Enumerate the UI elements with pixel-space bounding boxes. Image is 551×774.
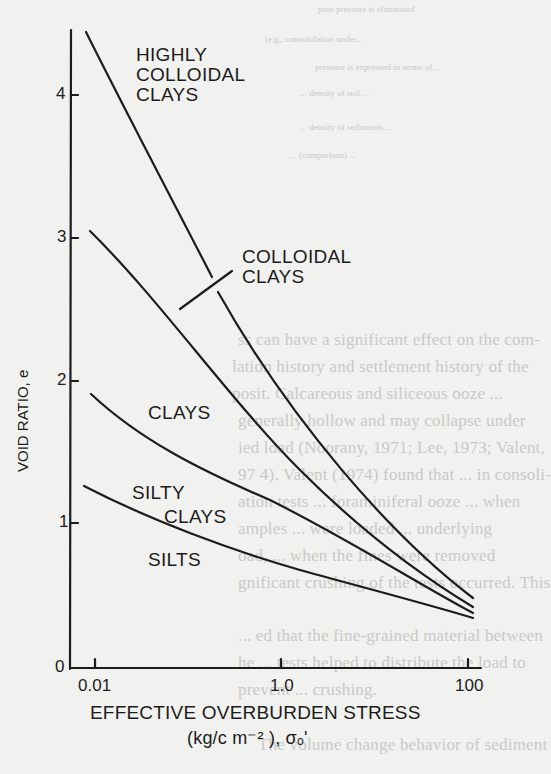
label-line: CLAYS — [242, 267, 351, 287]
y-axis-title: VOID RATIO, e — [14, 370, 31, 472]
label-line: COLLOIDAL — [136, 65, 245, 85]
y-tick-label: 0 — [55, 657, 64, 677]
y-tick-label: 2 — [57, 370, 66, 390]
label-line: CLAYS — [136, 85, 245, 105]
y-tick-label: 3 — [57, 227, 66, 247]
y-tick-label: 1 — [59, 512, 68, 532]
curve-silts — [84, 486, 473, 618]
x-tick-label: 1.0 — [270, 676, 294, 696]
label-colloidal-clays: COLLOIDAL CLAYS — [242, 247, 351, 287]
label-clays: CLAYS — [148, 403, 210, 423]
x-axis-units: (kg/c m⁻² ), σₒ' — [187, 727, 308, 749]
label-silty: SILTY — [132, 483, 185, 503]
x-axis-title: EFFECTIVE OVERBURDEN STRESS — [90, 702, 421, 724]
curve-clays — [91, 394, 473, 613]
label-silts: SILTS — [148, 550, 201, 570]
x-tick-label: 100 — [455, 676, 483, 696]
label-silty-clays: CLAYS — [164, 507, 226, 527]
curve-highly-colloidal-clays-lower — [218, 292, 473, 598]
y-axis — [70, 30, 71, 669]
label-line: HIGHLY — [136, 45, 245, 65]
label-highly-colloidal: HIGHLY COLLOIDAL CLAYS — [136, 45, 245, 105]
x-tick-label: 0.01 — [78, 676, 111, 696]
y-tick-label: 4 — [56, 84, 65, 104]
label-line: COLLOIDAL — [242, 247, 351, 267]
